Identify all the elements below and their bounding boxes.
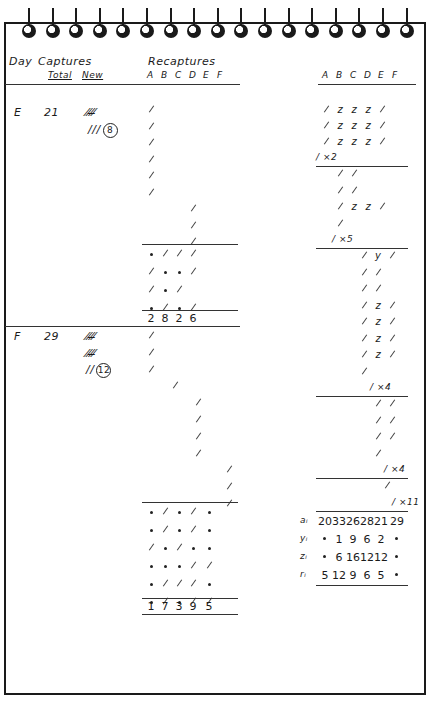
summary-value [317,533,331,544]
summary-value: 5 [372,569,390,582]
right-cell [385,250,399,261]
right-cell [333,185,347,196]
right-cell: z [347,104,361,115]
left-cell [222,481,236,492]
summary-cell [158,284,172,295]
day-e-total-cell: 6 [186,312,200,325]
left-cell [191,397,205,408]
summary-cell [144,284,158,295]
summary-row-label: yᵢ [300,533,308,543]
block-divider [142,310,238,311]
block-divider [316,166,408,167]
left-cell [144,137,158,148]
left-cell [191,414,205,425]
day-f-total-cell: 7 [158,600,172,613]
right-cell: z [361,104,375,115]
right-cell [371,267,385,278]
header-recaptures: Recaptures [148,55,216,68]
right-cell [371,431,385,442]
day-f-new-count: 12 [96,363,111,378]
summary-cell [144,506,158,517]
summary-cell [158,266,172,277]
spiral-ring [305,8,319,38]
day-f-total-cell: 1 [144,600,158,613]
summary-cell [202,524,216,535]
right-cell [385,316,399,327]
left-cell [222,498,236,509]
summary-cell [202,506,216,517]
summary-cell [186,578,200,589]
left-cell [144,364,158,375]
left-cell [144,121,158,132]
right-cell [375,120,389,131]
spiral-ring [116,8,130,38]
summary-cell [158,560,172,571]
block-divider [142,598,238,599]
summary-cell [186,542,200,553]
block-divider [316,396,408,397]
right-cell [319,136,333,147]
spiral-ring [140,8,154,38]
summary-cell [158,524,172,535]
right-cell: z [371,349,385,360]
block-divider [142,244,238,245]
block-divider [142,502,238,503]
right-cell: z [347,136,361,147]
day-f-total: 29 [44,330,59,343]
left-col-header: E [203,70,209,80]
right-cell [380,480,394,491]
summary-cell [172,542,186,553]
right-cell: z [361,201,375,212]
summary-value [389,533,403,544]
day-e-total-cell: 2 [144,312,158,325]
left-cell [144,330,158,341]
spiral-ring [258,8,272,38]
right-cell [385,415,399,426]
right-cell [371,283,385,294]
day-e-total-cell: 8 [158,312,172,325]
right-cell [375,136,389,147]
summary-cell [186,506,200,517]
summary-underline [316,585,408,586]
left-cell [186,236,200,247]
right-cell [375,201,389,212]
left-cell [186,203,200,214]
right-cell: z [371,300,385,311]
summary-cell [158,248,172,259]
right-cell [357,333,371,344]
right-cell [357,283,371,294]
right-col-header: E [378,70,384,80]
summary-cell [158,578,172,589]
summary-row-label: rᵢ [300,569,306,579]
summary-cell [144,524,158,535]
right-cell [333,168,347,179]
left-cell [144,154,158,165]
day-e-label: E [14,106,21,119]
day-e-tally-2: ///8 [88,123,118,138]
spiral-ring [187,8,201,38]
right-cell [385,333,399,344]
right-cell [371,415,385,426]
right-cell [371,398,385,409]
right-cell: z [361,120,375,131]
summary-cell [202,560,216,571]
right-header-underline [318,84,416,85]
right-col-header: C [350,70,357,80]
day-e-total: 21 [44,106,59,119]
spiral-ring [164,8,178,38]
spiral-ring [22,8,36,38]
left-cell [191,448,205,459]
summary-value [317,551,331,562]
spiral-ring [400,8,414,38]
summary-cell [144,542,158,553]
summary-cell [144,266,158,277]
left-col-header: D [189,70,196,80]
summary-cell [172,506,186,517]
left-cell [222,464,236,475]
multiplier: / ×11 [392,497,419,507]
right-cell [319,104,333,115]
right-cell [333,218,347,229]
right-cell: z [333,120,347,131]
summary-cell [186,524,200,535]
right-cell [347,185,361,196]
